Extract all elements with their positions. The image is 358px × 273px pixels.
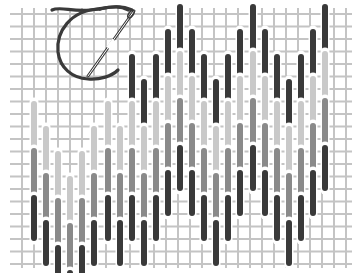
needle-and-thread [0, 0, 358, 273]
stitch-illustration [0, 0, 358, 273]
needle-icon [88, 9, 135, 76]
